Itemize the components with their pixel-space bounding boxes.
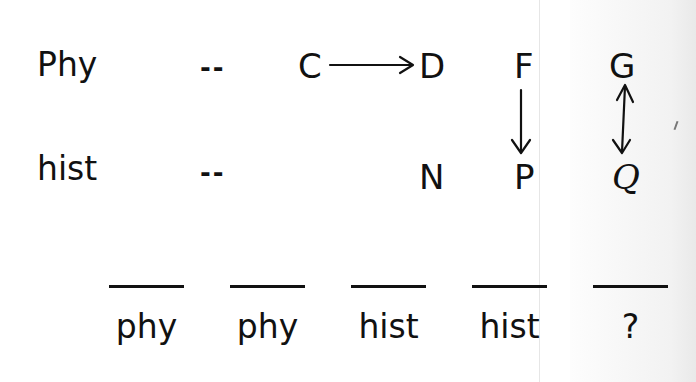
answer-blank-2[interactable]	[230, 285, 305, 288]
arrow-c-to-d-icon	[330, 57, 413, 73]
answer-label-2: phy	[230, 310, 305, 343]
answer-label-5: ?	[593, 310, 668, 343]
answer-label-4: hist	[472, 310, 547, 343]
arrow-f-to-p-icon	[512, 90, 530, 153]
relation-arrows	[0, 0, 696, 382]
answer-label-3: hist	[351, 310, 426, 343]
answer-blank-5[interactable]	[593, 285, 668, 288]
answer-blank-4[interactable]	[472, 285, 547, 288]
answer-label-1: phy	[109, 310, 184, 343]
answer-blank-1[interactable]	[109, 285, 184, 288]
answer-blank-3[interactable]	[351, 285, 426, 288]
double-arrow-g-q-icon	[613, 85, 633, 153]
